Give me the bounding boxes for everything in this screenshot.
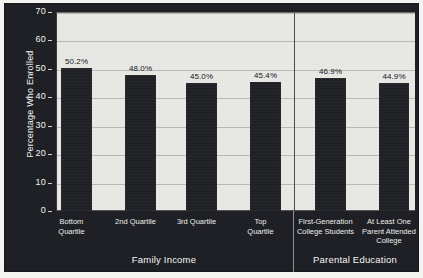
y-axis-tick-label: 30 <box>14 120 46 130</box>
y-axis-tick-mark <box>48 154 52 155</box>
category-label: First-GenerationCollege Students <box>293 217 359 236</box>
bar-value-label: 46.9% <box>306 67 355 76</box>
bar <box>250 82 281 211</box>
y-axis-tick-mark <box>48 126 52 127</box>
gridline <box>57 155 415 156</box>
gridline <box>57 70 415 71</box>
bar <box>315 78 346 211</box>
gridline <box>57 13 415 14</box>
axis-baseline <box>57 210 415 211</box>
plot-grain-overlay <box>57 13 415 211</box>
y-axis-tick-label: 50 <box>14 63 46 73</box>
bar-value-label: 48.0% <box>116 64 165 73</box>
bar <box>186 83 217 211</box>
gridline <box>57 98 415 99</box>
y-axis-tick-label: 20 <box>14 148 46 158</box>
y-axis-tick-label: 10 <box>14 177 46 187</box>
gridline <box>57 41 415 42</box>
group-title: Family Income <box>44 254 284 265</box>
category-label: 3rd Quartile <box>164 217 230 227</box>
bar-value-label: 44.9% <box>370 72 418 81</box>
y-axis-title: Percentage Who Enrolled <box>25 24 35 184</box>
category-label: At Least OneParent AttendedCollege <box>356 217 422 246</box>
category-label: TopQuartile <box>228 217 294 236</box>
gridline <box>57 127 415 128</box>
bar <box>125 75 156 211</box>
y-axis-tick-label: 0 <box>14 205 46 215</box>
y-axis-tick-mark <box>48 211 52 212</box>
group-divider <box>294 13 295 212</box>
y-axis-tick-mark <box>48 97 52 98</box>
y-axis-tick-label: 60 <box>14 34 46 44</box>
chart-root: Percentage Who Enrolled 706050403020100 … <box>0 0 423 278</box>
y-axis-tick-mark <box>48 40 52 41</box>
bar-value-label: 50.2% <box>52 57 101 66</box>
category-label: BottomQuartile <box>39 217 105 236</box>
y-axis-tick-mark <box>48 183 52 184</box>
plot-area: 50.2%48.0%45.0%45.4%46.9%44.9% <box>56 12 415 211</box>
bar-value-label: 45.4% <box>241 71 290 80</box>
bar <box>61 68 92 211</box>
category-label: 2nd Quartile <box>103 217 169 227</box>
chart-frame: Percentage Who Enrolled 706050403020100 … <box>4 3 419 272</box>
bar <box>379 83 409 211</box>
y-axis-tick-mark <box>48 12 52 13</box>
y-axis-tick-label: 70 <box>14 6 46 16</box>
group-title: Parental Education <box>292 254 418 265</box>
y-axis-tick-label: 40 <box>14 91 46 101</box>
y-axis-tick-mark <box>48 69 52 70</box>
bar-value-label: 45.0% <box>177 72 226 81</box>
gridline <box>57 184 415 185</box>
